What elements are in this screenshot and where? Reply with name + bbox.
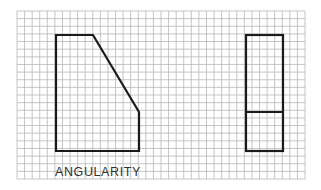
graph-paper-grid — [17, 11, 305, 179]
drawing-canvas — [0, 0, 321, 190]
front-view-angular-shape — [56, 35, 139, 151]
diagram-caption: ANGULARITY — [55, 165, 141, 179]
